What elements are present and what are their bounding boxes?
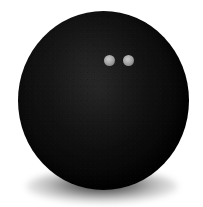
image-canvas: Black rubber squash ball with two grey d…: [0, 0, 203, 207]
squash-ball: [18, 11, 189, 190]
ball-dot-left: [104, 55, 115, 66]
ball-dot-right: [123, 55, 134, 66]
ball-surface-texture: [18, 11, 189, 190]
image-caption: Black rubber squash ball with two grey d…: [0, 0, 1, 1]
